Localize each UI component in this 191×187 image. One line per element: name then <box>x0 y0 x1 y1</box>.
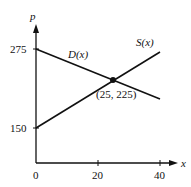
y-axis-arrow-icon <box>33 24 39 33</box>
supply-label: S(x) <box>136 36 154 49</box>
equilibrium-label: (25, 225) <box>96 88 137 101</box>
supply-demand-chart: p x 275 150 0 20 40 D(x) S(x) (25, 225) <box>0 0 191 187</box>
equilibrium-point <box>110 77 116 83</box>
x-tick-label-0: 0 <box>33 169 39 181</box>
x-tick-label-40: 40 <box>154 169 166 181</box>
x-axis-arrow-icon <box>169 160 178 166</box>
x-tick-label-20: 20 <box>92 169 104 181</box>
y-tick-label-150: 150 <box>10 122 27 134</box>
x-axis-label: x <box>180 157 186 169</box>
y-tick-label-275: 275 <box>10 43 27 55</box>
y-axis-label: p <box>29 10 36 22</box>
demand-label: D(x) <box>67 48 88 61</box>
